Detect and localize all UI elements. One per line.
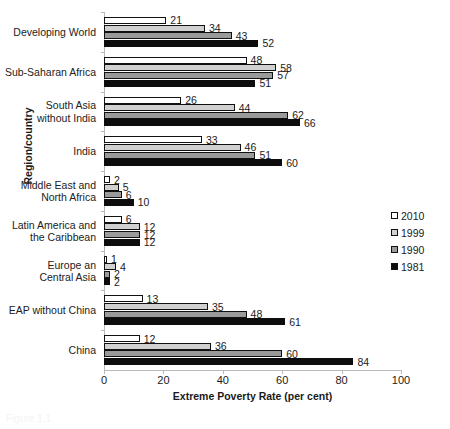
- bar-1999: [104, 303, 208, 310]
- category-label: India: [73, 145, 96, 158]
- bar-row: 62: [104, 112, 401, 119]
- bar-value-label: 61: [285, 315, 301, 327]
- bar-row: 4: [104, 263, 401, 270]
- legend-item[interactable]: 1999: [391, 224, 450, 241]
- x-tick-label: 80: [335, 374, 347, 386]
- y-axis-tick: [101, 290, 104, 291]
- bar-value-label: 60: [282, 156, 298, 168]
- bar-2010: [104, 295, 143, 302]
- legend-label: 1990: [401, 244, 424, 256]
- category-label: Middle East andNorth Africa: [21, 178, 96, 203]
- bar-row: 13: [104, 295, 401, 302]
- bar-row: 61: [104, 318, 401, 325]
- bar-1999: [104, 25, 205, 32]
- category-label: Developing World: [13, 26, 96, 39]
- legend-swatch: [391, 263, 398, 270]
- y-axis-tick: [101, 211, 104, 212]
- legend-label: 1999: [401, 227, 424, 239]
- x-axis-ticks: 020406080100: [104, 370, 401, 386]
- bar-row: 43: [104, 32, 401, 39]
- bar-row: 12: [104, 239, 401, 246]
- x-tick-label: 0: [101, 374, 107, 386]
- y-axis-tick: [101, 92, 104, 93]
- figure-caption: Figure 1.1: [6, 413, 51, 424]
- category-group: Latin America andthe Caribbean6121212: [104, 211, 401, 251]
- category-group: South Asiawithout India26446266: [104, 92, 401, 132]
- x-tick-label: 100: [392, 374, 410, 386]
- bar-2010: [104, 57, 247, 64]
- chart-legend: 2010199919901981: [391, 207, 450, 275]
- legend-label: 2010: [401, 210, 424, 222]
- legend-label: 1981: [401, 261, 424, 273]
- category-group: Europe anCentral Asia1422: [104, 251, 401, 291]
- y-axis-tick: [101, 12, 104, 13]
- bar-1999: [104, 144, 241, 151]
- category-label: Europe anCentral Asia: [39, 258, 96, 283]
- bar-1990: [104, 72, 273, 79]
- legend-item[interactable]: 1990: [391, 241, 450, 258]
- bar-value-label: 2: [110, 276, 120, 288]
- bar-2010: [104, 17, 166, 24]
- bar-row: 21: [104, 17, 401, 24]
- category-group: Middle East andNorth Africa25610: [104, 171, 401, 211]
- bar-row: 36: [104, 343, 401, 350]
- y-axis-tick: [101, 251, 104, 252]
- category-group: Developing World21344352: [104, 12, 401, 52]
- legend-swatch: [391, 212, 398, 219]
- bar-1999: [104, 184, 119, 191]
- category-label: Latin America andthe Caribbean: [12, 218, 96, 243]
- bar-value-label: 84: [353, 355, 369, 367]
- category-group: Sub-Saharan Africa48585751: [104, 52, 401, 92]
- y-axis-tick: [101, 330, 104, 331]
- legend-item[interactable]: 1981: [391, 258, 450, 275]
- bar-2010: [104, 136, 202, 143]
- plot-area: Developing World21344352Sub-Saharan Afri…: [104, 12, 401, 370]
- bar-2010: [104, 216, 122, 223]
- x-tick-label: 20: [157, 374, 169, 386]
- x-tick-label: 40: [217, 374, 229, 386]
- bar-row: 2: [104, 176, 401, 183]
- y-axis-tick: [101, 131, 104, 132]
- bar-1990: [104, 231, 140, 238]
- bar-1999: [104, 104, 235, 111]
- x-axis-title: Extreme Poverty Rate (per cent): [104, 390, 401, 402]
- category-group: EAP without China13354861: [104, 290, 401, 330]
- bar-row: 48: [104, 57, 401, 64]
- bar-row: 10: [104, 199, 401, 206]
- bar-row: 84: [104, 358, 401, 365]
- bar-1999: [104, 343, 211, 350]
- bar-value-label: 10: [134, 196, 150, 208]
- bar-row: 60: [104, 159, 401, 166]
- bar-value-label: 52: [258, 37, 274, 49]
- bar-1981: [104, 199, 134, 206]
- legend-item[interactable]: 2010: [391, 207, 450, 224]
- bar-value-label: 12: [140, 236, 156, 248]
- bar-row: 12: [104, 335, 401, 342]
- bar-row: 2: [104, 278, 401, 285]
- bar-1990: [104, 191, 122, 198]
- bar-1999: [104, 223, 140, 230]
- bar-row: 26: [104, 97, 401, 104]
- horizontal-bar-chart: Region/country Developing World21344352S…: [0, 0, 450, 429]
- bar-row: 34: [104, 25, 401, 32]
- bar-row: 58: [104, 64, 401, 71]
- bar-row: 48: [104, 311, 401, 318]
- bar-1981: [104, 119, 300, 126]
- legend-swatch: [391, 246, 398, 253]
- bar-row: 51: [104, 152, 401, 159]
- bar-row: 52: [104, 40, 401, 47]
- bar-1981: [104, 358, 353, 365]
- x-tick-label: 60: [276, 374, 288, 386]
- bar-row: 51: [104, 80, 401, 87]
- bar-1990: [104, 152, 255, 159]
- y-axis-tick: [101, 52, 104, 53]
- bar-1981: [104, 239, 140, 246]
- bar-row: 1: [104, 256, 401, 263]
- bar-1990: [104, 112, 288, 119]
- bar-value-label: 66: [300, 117, 316, 129]
- bar-1990: [104, 32, 232, 39]
- bar-row: 57: [104, 72, 401, 79]
- bar-1990: [104, 350, 282, 357]
- category-label: South Asiawithout India: [37, 99, 96, 124]
- category-label: EAP without China: [9, 304, 96, 317]
